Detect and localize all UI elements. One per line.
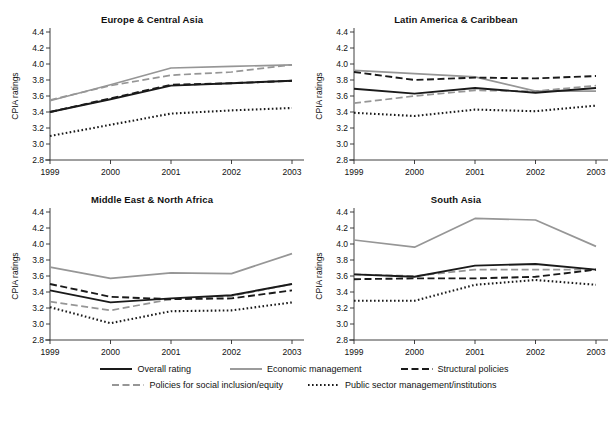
legend-item-structural-policies: Structural policies — [400, 364, 509, 374]
svg-text:1999: 1999 — [345, 347, 364, 357]
legend-label: Public sector management/institutions — [345, 381, 497, 390]
svg-text:2000: 2000 — [405, 347, 424, 357]
svg-text:3.8: 3.8 — [336, 75, 348, 85]
legend-label: Policies for social inclusion/equity — [149, 381, 283, 390]
svg-text:3.4: 3.4 — [32, 107, 44, 117]
svg-text:CPIA ratings: CPIA ratings — [10, 72, 20, 119]
svg-text:2002: 2002 — [526, 347, 545, 357]
svg-text:3.0: 3.0 — [32, 139, 44, 149]
svg-text:3.8: 3.8 — [32, 75, 44, 85]
svg-text:3.0: 3.0 — [336, 139, 348, 149]
legend-swatch-dotted-black — [307, 380, 341, 390]
svg-text:3.2: 3.2 — [32, 123, 44, 133]
chart-panel-europe-central-asia: Europe & Central Asia 2.83.03.23.43.63.8… — [0, 14, 304, 194]
svg-text:3.0: 3.0 — [336, 319, 348, 329]
svg-text:4.2: 4.2 — [336, 223, 348, 233]
legend-row-secondary: Policies for social inclusion/equity Pub… — [0, 380, 608, 390]
svg-text:2001: 2001 — [162, 347, 181, 357]
svg-text:2003: 2003 — [587, 347, 606, 357]
svg-text:3.0: 3.0 — [32, 319, 44, 329]
legend-item-policies-social-inclusion-equity: Policies for social inclusion/equity — [111, 380, 283, 390]
svg-text:2002: 2002 — [222, 347, 241, 357]
svg-text:2003: 2003 — [283, 167, 302, 177]
svg-text:2001: 2001 — [162, 167, 181, 177]
svg-text:2003: 2003 — [283, 347, 302, 357]
svg-text:4.4: 4.4 — [32, 207, 44, 217]
svg-text:CPIA ratings: CPIA ratings — [314, 72, 324, 119]
svg-text:3.2: 3.2 — [336, 303, 348, 313]
cpia-ratings-figure: Europe & Central Asia 2.83.03.23.43.63.8… — [0, 0, 608, 422]
panel-plot: 2.83.03.23.43.63.84.04.24.41999200020012… — [0, 194, 304, 374]
svg-text:4.4: 4.4 — [32, 27, 44, 37]
chart-panel-latin-america-caribbean: Latin America & Caribbean 2.83.03.23.43.… — [304, 14, 608, 194]
legend-row-primary: Overall rating Economic management Struc… — [0, 364, 608, 374]
svg-text:3.6: 3.6 — [336, 271, 348, 281]
panel-plot: 2.83.03.23.43.63.84.04.24.41999200020012… — [304, 14, 608, 194]
svg-text:4.0: 4.0 — [32, 59, 44, 69]
svg-text:2003: 2003 — [587, 167, 606, 177]
legend-item-overall-rating: Overall rating — [99, 364, 191, 374]
svg-text:4.2: 4.2 — [32, 223, 44, 233]
svg-text:3.6: 3.6 — [32, 271, 44, 281]
svg-text:4.0: 4.0 — [336, 239, 348, 249]
legend-swatch-solid-black — [99, 364, 133, 374]
legend-label: Structural policies — [438, 365, 509, 374]
svg-text:2000: 2000 — [101, 347, 120, 357]
legend-item-economic-management: Economic management — [229, 364, 362, 374]
svg-text:3.4: 3.4 — [336, 107, 348, 117]
chart-panel-south-asia: South Asia 2.83.03.23.43.63.84.04.24.419… — [304, 194, 608, 374]
legend-swatch-dashed-black — [400, 364, 434, 374]
legend-label: Economic management — [267, 365, 362, 374]
svg-text:2.8: 2.8 — [336, 155, 348, 165]
svg-text:4.4: 4.4 — [336, 27, 348, 37]
svg-text:2000: 2000 — [101, 167, 120, 177]
svg-text:1999: 1999 — [345, 167, 364, 177]
panel-grid: Europe & Central Asia 2.83.03.23.43.63.8… — [0, 0, 608, 360]
svg-text:3.2: 3.2 — [32, 303, 44, 313]
svg-text:2002: 2002 — [526, 167, 545, 177]
svg-text:3.8: 3.8 — [32, 255, 44, 265]
panel-plot: 2.83.03.23.43.63.84.04.24.41999200020012… — [304, 194, 608, 374]
svg-text:2000: 2000 — [405, 167, 424, 177]
svg-text:CPIA ratings: CPIA ratings — [10, 252, 20, 299]
svg-text:2.8: 2.8 — [336, 335, 348, 345]
legend-swatch-solid-gray — [229, 364, 263, 374]
svg-text:3.6: 3.6 — [32, 91, 44, 101]
legend-label: Overall rating — [137, 365, 191, 374]
svg-text:2002: 2002 — [222, 167, 241, 177]
svg-text:4.0: 4.0 — [32, 239, 44, 249]
chart-legend: Overall rating Economic management Struc… — [0, 360, 608, 422]
svg-text:2.8: 2.8 — [32, 335, 44, 345]
svg-text:4.4: 4.4 — [336, 207, 348, 217]
panel-plot: 2.83.03.23.43.63.84.04.24.41999200020012… — [0, 14, 304, 194]
legend-swatch-dashed-gray — [111, 380, 145, 390]
chart-panel-middle-east-north-africa: Middle East & North Africa 2.83.03.23.43… — [0, 194, 304, 374]
svg-text:2.8: 2.8 — [32, 155, 44, 165]
svg-text:3.2: 3.2 — [336, 123, 348, 133]
svg-text:3.8: 3.8 — [336, 255, 348, 265]
svg-text:4.2: 4.2 — [32, 43, 44, 53]
svg-text:2001: 2001 — [466, 167, 485, 177]
svg-text:3.4: 3.4 — [32, 287, 44, 297]
svg-text:3.4: 3.4 — [336, 287, 348, 297]
svg-text:4.2: 4.2 — [336, 43, 348, 53]
svg-text:CPIA ratings: CPIA ratings — [314, 252, 324, 299]
svg-text:1999: 1999 — [41, 167, 60, 177]
svg-text:3.6: 3.6 — [336, 91, 348, 101]
svg-text:1999: 1999 — [41, 347, 60, 357]
svg-text:2001: 2001 — [466, 347, 485, 357]
svg-text:4.0: 4.0 — [336, 59, 348, 69]
legend-item-public-sector-management-institutions: Public sector management/institutions — [307, 380, 497, 390]
